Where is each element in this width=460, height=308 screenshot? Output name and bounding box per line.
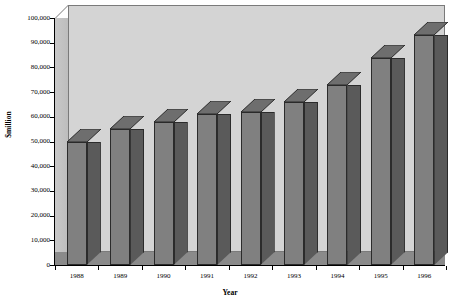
bar-top-face bbox=[414, 22, 450, 37]
bar-front-face bbox=[197, 114, 217, 265]
bar-side-face bbox=[347, 85, 361, 265]
y-axis-line bbox=[54, 18, 55, 266]
y-axis-labels: 100,00090,00080,00070,00060,00050,00040,… bbox=[8, 0, 50, 308]
x-axis-tick-label: 1994 bbox=[314, 272, 360, 280]
bar-top-face bbox=[241, 99, 277, 114]
y-axis-tick-label: 10,000 bbox=[8, 237, 50, 244]
x-axis-tick-mark bbox=[446, 266, 447, 270]
bar-1992 bbox=[241, 99, 275, 265]
x-axis-tick-mark bbox=[272, 266, 273, 270]
bar-side-face bbox=[261, 112, 275, 265]
bar-front-face bbox=[110, 129, 130, 265]
x-axis-tick-mark bbox=[359, 266, 360, 270]
bar-top-face bbox=[67, 129, 103, 144]
bar-1989 bbox=[110, 116, 144, 265]
y-axis-tick-label: 0 bbox=[8, 262, 50, 269]
x-axis-tick-mark bbox=[185, 266, 186, 270]
x-axis-tick-mark bbox=[142, 266, 143, 270]
bar-top-face bbox=[197, 101, 233, 116]
bar-side-face bbox=[304, 102, 318, 265]
y-axis-tick-mark bbox=[50, 67, 54, 68]
x-axis-tick-mark bbox=[229, 266, 230, 270]
x-axis-tick-label: 1996 bbox=[401, 272, 447, 280]
bar-1990 bbox=[154, 109, 188, 265]
bar-side-face bbox=[130, 129, 144, 265]
y-axis-tick-mark bbox=[50, 43, 54, 44]
bar-1996 bbox=[414, 22, 448, 265]
bar-1993 bbox=[284, 89, 318, 265]
bar-top-face bbox=[110, 116, 146, 131]
bar-1994 bbox=[327, 72, 361, 265]
bar-top-face bbox=[284, 89, 320, 104]
y-axis-tick-label: 30,000 bbox=[8, 187, 50, 194]
x-axis-title: Year bbox=[0, 288, 460, 297]
y-axis-tick-mark bbox=[50, 18, 54, 19]
bar-side-face bbox=[174, 122, 188, 265]
x-axis-tick-label: 1990 bbox=[141, 272, 187, 280]
y-axis-tick-label: 70,000 bbox=[8, 89, 50, 96]
x-axis-tick-label: 1993 bbox=[271, 272, 317, 280]
y-axis-tick-mark bbox=[50, 92, 54, 93]
y-axis-tick-label: 50,000 bbox=[8, 138, 50, 145]
x-axis-tick-mark bbox=[316, 266, 317, 270]
bar-front-face bbox=[154, 122, 174, 265]
bar-top-face bbox=[371, 45, 407, 60]
y-axis-tick-label: 40,000 bbox=[8, 163, 50, 170]
bar-top-face bbox=[154, 109, 190, 124]
y-axis-tick-label: 100,000 bbox=[8, 15, 50, 22]
bar-side-face bbox=[217, 114, 231, 265]
x-axis-tick-label: 1989 bbox=[97, 272, 143, 280]
bar-front-face bbox=[284, 102, 304, 265]
y-axis-tick-mark bbox=[50, 265, 54, 266]
y-axis-tick-label: 60,000 bbox=[8, 113, 50, 120]
bar-1991 bbox=[197, 101, 231, 265]
y-axis-tick-mark bbox=[50, 117, 54, 118]
bar-1995 bbox=[371, 45, 405, 265]
x-axis-tick-label: 1992 bbox=[228, 272, 274, 280]
bar-front-face bbox=[414, 35, 434, 265]
y-axis-tick-label: 20,000 bbox=[8, 212, 50, 219]
x-axis-tick-mark bbox=[403, 266, 404, 270]
plot-floor-front-edge bbox=[54, 265, 445, 266]
bar-front-face bbox=[371, 58, 391, 265]
y-axis-tick-label: 80,000 bbox=[8, 64, 50, 71]
y-axis-tick-mark bbox=[50, 166, 54, 167]
bar-front-face bbox=[327, 85, 347, 265]
bar-side-face bbox=[391, 58, 405, 265]
y-axis-tick-mark bbox=[50, 216, 54, 217]
bar-front-face bbox=[67, 142, 87, 266]
plot-top-slant bbox=[54, 4, 69, 19]
bar-side-face bbox=[87, 142, 101, 266]
y-axis-tick-mark bbox=[50, 240, 54, 241]
y-axis-tick-mark bbox=[50, 142, 54, 143]
bar-front-face bbox=[241, 112, 261, 265]
bar-chart: $million 100,00090,00080,00070,00060,000… bbox=[0, 0, 460, 308]
bar-1988 bbox=[67, 129, 101, 266]
x-axis-tick-label: 1991 bbox=[184, 272, 230, 280]
x-axis-tick-mark bbox=[98, 266, 99, 270]
y-axis-tick-mark bbox=[50, 191, 54, 192]
y-axis-tick-label: 90,000 bbox=[8, 39, 50, 46]
x-axis-tick-label: 1995 bbox=[358, 272, 404, 280]
bar-side-face bbox=[434, 35, 448, 265]
bar-top-face bbox=[327, 72, 363, 87]
x-axis-tick-label: 1988 bbox=[54, 272, 100, 280]
x-axis-tick-mark bbox=[55, 266, 56, 270]
